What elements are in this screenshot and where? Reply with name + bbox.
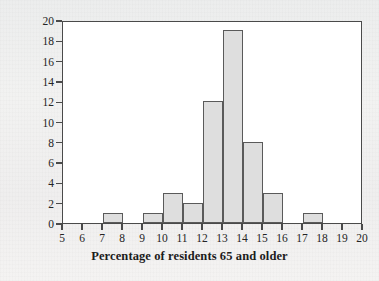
x-axis-tick-group: 567891011121314151617181920 <box>0 224 379 248</box>
histogram-bar <box>103 213 123 223</box>
histogram-bar <box>223 30 243 223</box>
histogram-bar <box>303 213 323 223</box>
x-axis-tick-mark <box>81 224 82 230</box>
x-axis-tick-mark <box>241 224 242 230</box>
x-axis-tick-mark <box>161 224 162 230</box>
histogram-bar <box>243 142 263 223</box>
x-axis-tick-label: 10 <box>152 231 172 246</box>
y-axis-tick-label: 20 <box>43 13 55 29</box>
x-axis-tick-label: 11 <box>172 231 192 246</box>
x-axis-tick-mark <box>321 224 322 230</box>
x-axis-tick-mark <box>281 224 282 230</box>
x-axis-tick-mark <box>121 224 122 230</box>
x-axis-tick-label: 14 <box>232 231 252 246</box>
x-axis-tick-mark <box>141 224 142 230</box>
x-axis-tick-label: 5 <box>52 231 72 246</box>
x-axis-tick-label: 7 <box>92 231 112 246</box>
x-axis-tick-mark <box>301 224 302 230</box>
x-axis-tick-mark <box>221 224 222 230</box>
y-axis-tick-label: 14 <box>43 74 55 90</box>
x-axis-tick-mark <box>181 224 182 230</box>
x-axis-tick-label: 20 <box>352 231 372 246</box>
y-axis-tick-label: 10 <box>43 115 55 131</box>
y-axis-tick-label: 6 <box>48 155 54 171</box>
x-axis-tick-label: 8 <box>112 231 132 246</box>
x-axis-tick-label: 6 <box>72 231 92 246</box>
x-axis-tick-label: 13 <box>212 231 232 246</box>
x-axis-title: Percentage of residents 65 and older <box>0 249 379 264</box>
x-axis-tick-mark <box>61 224 62 230</box>
histogram-bar <box>203 101 223 223</box>
y-axis-tick-label: 16 <box>43 54 55 70</box>
x-axis-tick-mark <box>341 224 342 230</box>
x-axis-tick-mark <box>101 224 102 230</box>
x-axis-tick-label: 16 <box>272 231 292 246</box>
x-axis-tick-label: 9 <box>132 231 152 246</box>
y-axis-tick-label: 18 <box>43 33 55 49</box>
x-axis-tick-label: 17 <box>292 231 312 246</box>
y-axis-tick-label: 12 <box>43 94 55 110</box>
histogram-bar <box>183 203 203 223</box>
histogram-figure: Number of states 02468101214161820 56789… <box>0 0 379 281</box>
x-axis-tick-mark <box>201 224 202 230</box>
x-axis-tick-label: 15 <box>252 231 272 246</box>
x-axis-tick-mark <box>361 224 362 230</box>
x-axis-tick-label: 12 <box>192 231 212 246</box>
x-axis-tick-label: 18 <box>312 231 332 246</box>
histogram-bar <box>263 193 283 223</box>
y-axis-tick-label: 8 <box>48 135 54 151</box>
y-axis-tick-label: 4 <box>48 175 54 191</box>
histogram-bar <box>163 193 183 223</box>
plot-area <box>62 21 362 224</box>
x-axis-tick-label: 19 <box>332 231 352 246</box>
x-axis-tick-mark <box>261 224 262 230</box>
histogram-bar <box>143 213 163 223</box>
histogram-bars <box>63 22 361 223</box>
y-axis-tick-label: 2 <box>48 196 54 212</box>
